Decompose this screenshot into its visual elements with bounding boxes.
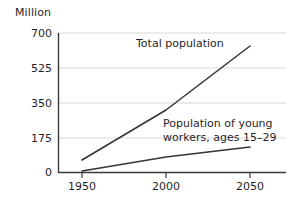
x-tick-label-2050: 2050 — [228, 180, 272, 193]
y-tick-label-175: 175 — [18, 132, 52, 145]
y-tick-label-0: 0 — [18, 166, 52, 179]
series-line-young-workers — [82, 147, 250, 171]
annotation-young-workers: Population of young workers, ages 15–29 — [163, 117, 295, 144]
y-tick-label-525: 525 — [18, 62, 52, 75]
annotation-young-workers-line1: Population of young — [163, 117, 295, 131]
y-tick-label-350: 350 — [18, 97, 52, 110]
y-tick-label-700: 700 — [18, 27, 52, 40]
population-line-chart: Million 700 525 350 175 0 1950 2000 2 — [0, 0, 303, 206]
annotation-young-workers-line2: workers, ages 15–29 — [163, 131, 295, 145]
x-tick-label-1950: 1950 — [60, 180, 104, 193]
x-tick-label-2000: 2000 — [144, 180, 188, 193]
annotation-total-population: Total population — [136, 37, 224, 51]
